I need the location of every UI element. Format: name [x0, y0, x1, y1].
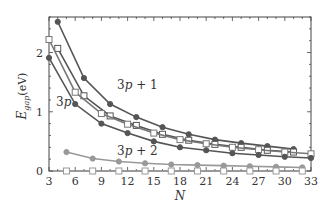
data-point	[299, 168, 305, 174]
y-label-unit: (eV)	[16, 73, 29, 96]
data-point	[125, 130, 130, 135]
series-annotation: 3p	[56, 95, 72, 109]
x-tick-label: 15	[147, 175, 161, 188]
data-point	[308, 155, 313, 160]
data-point	[256, 147, 262, 153]
data-point	[55, 45, 61, 51]
series-0	[55, 19, 296, 152]
data-point	[116, 159, 121, 164]
x-tick-label: 33	[304, 175, 318, 188]
data-point	[99, 121, 104, 126]
x-tick-label: 24	[225, 175, 239, 188]
data-point	[46, 55, 51, 60]
data-point	[230, 151, 235, 156]
data-point	[247, 168, 253, 174]
axis-ticks: 3691215182124273033012	[36, 17, 318, 188]
data-point	[98, 111, 104, 117]
data-point	[142, 168, 148, 174]
data-point	[46, 37, 52, 43]
x-tick-label: 27	[252, 175, 266, 188]
x-tick-label: 12	[121, 175, 135, 188]
data-point	[194, 168, 200, 174]
data-point	[273, 168, 279, 174]
x-tick-label: 3	[46, 175, 53, 188]
data-point	[221, 163, 226, 168]
x-tick-label: 6	[72, 175, 79, 188]
data-point	[63, 168, 69, 174]
y-axis-label: Egap(eV)	[15, 73, 31, 121]
data-point	[134, 115, 139, 120]
data-point	[195, 162, 200, 167]
data-point	[177, 137, 183, 143]
y-label-sub: gap	[22, 96, 31, 111]
data-point	[203, 141, 209, 147]
x-axis-label: N	[174, 189, 186, 203]
data-point	[72, 89, 78, 95]
data-point	[177, 145, 182, 150]
data-point	[168, 168, 174, 174]
data-point	[151, 130, 157, 136]
data-point	[142, 161, 147, 166]
x-tick-label: 9	[98, 175, 105, 188]
data-point	[55, 19, 60, 24]
data-point	[81, 75, 86, 80]
data-point	[108, 101, 113, 106]
data-point	[90, 168, 96, 174]
x-tick-label: 21	[199, 175, 213, 188]
data-point	[125, 121, 131, 127]
x-tick-label: 18	[173, 175, 187, 188]
data-point	[73, 101, 78, 106]
svg-text:Egap(eV): Egap(eV)	[15, 73, 31, 121]
series-annotation: 3p + 2	[117, 144, 158, 158]
series-5	[63, 168, 305, 174]
data-point	[160, 125, 165, 130]
y-label-main: E	[15, 110, 29, 120]
series-group	[46, 19, 314, 174]
data-point	[116, 168, 122, 174]
data-point	[186, 132, 191, 137]
data-point	[64, 149, 69, 154]
x-tick-label: 30	[278, 175, 292, 188]
data-point	[256, 152, 261, 157]
y-tick-label: 0	[36, 165, 43, 178]
chart: 3691215182124273033012 3p + 13p3p + 2 N …	[0, 0, 332, 210]
data-point	[229, 144, 235, 150]
y-tick-label: 1	[36, 106, 43, 119]
series-annotation: 3p + 1	[117, 78, 158, 92]
series-3	[46, 55, 313, 160]
data-point	[90, 156, 95, 161]
y-tick-label: 2	[36, 47, 43, 60]
data-point	[169, 162, 174, 167]
data-point	[282, 154, 287, 159]
data-point	[221, 168, 227, 174]
data-point	[204, 148, 209, 153]
